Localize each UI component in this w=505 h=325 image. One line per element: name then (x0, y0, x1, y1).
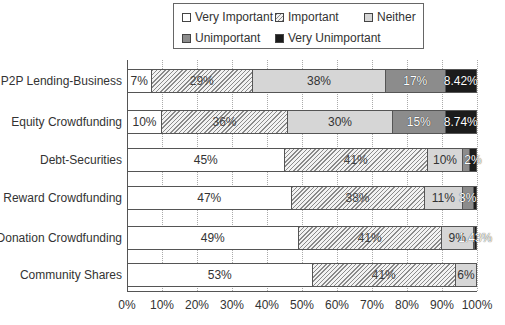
x-tick-label: 10% (150, 298, 174, 312)
legend-item-neither: Neither (364, 10, 416, 24)
data-label: 41% (358, 231, 382, 245)
x-tick-label: 90% (430, 298, 454, 312)
legend-label: Important (288, 10, 339, 24)
bar-segment-ne: 11% (425, 186, 464, 210)
category-label: Reward Crowdfunding (3, 191, 122, 205)
data-label: 47% (197, 191, 221, 205)
very-important-swatch-icon (182, 13, 191, 22)
data-label: 2% (464, 153, 481, 167)
stacked-bar: 7%29%38%17%8.42% (127, 69, 477, 93)
data-label: 10% (433, 153, 457, 167)
bar-segment-ne: 10% (428, 148, 463, 172)
legend-item-important: Important (275, 10, 339, 24)
category-label: Debt-Securities (40, 153, 122, 167)
bar-segment-un: 17% (386, 69, 446, 93)
bar-segment-im: 36% (162, 110, 288, 134)
bar-segment-un: 3% (463, 186, 474, 210)
bar-segment-vi: 10% (127, 110, 162, 134)
category-label: Equity Crowdfunding (11, 115, 122, 129)
data-label: 10% (132, 115, 156, 129)
data-label: 6% (457, 268, 474, 282)
gridline (267, 60, 268, 291)
data-label: 11% (432, 191, 455, 205)
bar-segment-vi: 53% (127, 263, 313, 287)
stacked-bar: 53%41%6% (127, 263, 477, 287)
data-label: 41% (344, 153, 368, 167)
legend-label: Neither (377, 10, 416, 24)
stacked-bar: 45%41%10%2% (127, 148, 477, 172)
gridline (232, 60, 233, 291)
plot-area (127, 60, 477, 292)
bar-segment-im: 29% (152, 69, 254, 93)
bar-segment-ne: 30% (288, 110, 393, 134)
x-tick-label: 70% (360, 298, 384, 312)
gridline (477, 60, 478, 291)
gridline (372, 60, 373, 291)
legend-label: Very Important (195, 10, 273, 24)
data-label: 49% (201, 231, 225, 245)
gridline (197, 60, 198, 291)
data-label: 45% (194, 153, 218, 167)
bar-segment-vu: 2% (470, 148, 477, 172)
data-label: 38% (307, 74, 331, 88)
bar-segment-vi: 49% (127, 226, 299, 250)
gridline (302, 60, 303, 291)
x-tick-label: 80% (395, 298, 419, 312)
data-label: 38% (345, 191, 369, 205)
x-tick-label: 40% (255, 298, 279, 312)
important-swatch-icon (275, 13, 284, 22)
x-tick-label: 20% (185, 298, 209, 312)
legend-label: Very Unimportant (288, 31, 381, 45)
bar-segment-vi: 45% (127, 148, 285, 172)
x-tick-label: 60% (325, 298, 349, 312)
data-label: 3% (459, 191, 476, 205)
unimportant-swatch-icon (182, 34, 191, 43)
gridline (407, 60, 408, 291)
category-label: Donation Crowdfunding (0, 231, 122, 245)
data-label: 29% (190, 74, 214, 88)
gridline (337, 60, 338, 291)
x-tick-label: 50% (290, 298, 314, 312)
stacked-bar: 47%38%11%3% (127, 186, 477, 210)
bar-segment-im: 38% (292, 186, 425, 210)
gridline (442, 60, 443, 291)
legend-item-very-important: Very Important (182, 10, 273, 24)
bar-segment-vi: 7% (127, 69, 152, 93)
data-label: 17% (403, 74, 427, 88)
bar-segment-vu: 8.74% (446, 110, 478, 134)
stacked-bar: 10%36%30%15%8.74% (127, 110, 477, 134)
data-label: 53% (208, 268, 232, 282)
data-label: 1.43% (458, 231, 492, 245)
data-label: 7% (131, 74, 148, 88)
data-label: 15% (407, 115, 431, 129)
neither-swatch-icon (364, 13, 373, 22)
data-label: 30% (328, 115, 352, 129)
x-tick-label: 0% (118, 298, 135, 312)
bar-segment-un: 15% (393, 110, 446, 134)
bar-segment-ne: 6% (456, 263, 477, 287)
bar-segment-vi: 47% (127, 186, 292, 210)
data-label: 41% (372, 268, 396, 282)
chart-legend: Very Important Important Neither Unimpor… (173, 3, 424, 49)
bar-segment-im: 41% (285, 148, 429, 172)
bar-segment-vu: 1.43% (475, 226, 477, 250)
bar-segment-vu: 8.42% (446, 69, 478, 93)
gridline (162, 60, 163, 291)
category-label: P2P Lending-Business (1, 74, 122, 88)
x-tick-label: 30% (220, 298, 244, 312)
bar-segment-ne: 38% (253, 69, 386, 93)
data-label: 8.74% (444, 115, 478, 129)
legend-item-unimportant: Unimportant (182, 31, 260, 45)
data-label: 8.42% (444, 74, 478, 88)
bar-segment-im: 41% (299, 226, 443, 250)
category-label: Community Shares (20, 268, 122, 282)
x-tick-label: 100% (462, 298, 493, 312)
bar-segment-im: 41% (313, 263, 457, 287)
stacked-bar: 49%41%9%1.43% (127, 226, 477, 250)
data-label: 36% (212, 115, 236, 129)
legend-item-very-unimportant: Very Unimportant (275, 31, 381, 45)
legend-label: Unimportant (195, 31, 260, 45)
very-unimportant-swatch-icon (275, 34, 284, 43)
